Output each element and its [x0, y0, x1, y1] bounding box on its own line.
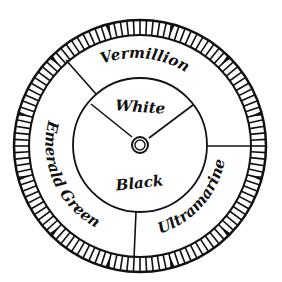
- center-hub: [132, 137, 148, 153]
- divider-ultramarine-emerald: [134, 212, 136, 258]
- label-black: Black: [114, 172, 164, 195]
- divider-emerald-vermillion: [66, 60, 96, 94]
- color-disc-diagram: Vermillion Ultramarine Emerald Green Whi…: [0, 0, 282, 282]
- label-emerald-green: Emerald Green: [41, 118, 103, 231]
- label-vermillion: Vermillion: [98, 44, 193, 76]
- disc-svg: Vermillion Ultramarine Emerald Green Whi…: [0, 0, 282, 282]
- label-white: White: [115, 96, 166, 117]
